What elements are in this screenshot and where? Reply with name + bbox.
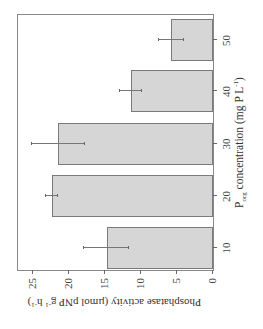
error-bar-50 xyxy=(159,40,183,41)
x-tick-label: 20 xyxy=(220,182,232,212)
y-label-sup1: -1 xyxy=(45,301,51,309)
error-cap-bottom xyxy=(84,142,85,145)
x-tick-label: 10 xyxy=(220,233,232,263)
y-tick xyxy=(68,270,69,274)
bar-40 xyxy=(131,71,213,113)
x-tick xyxy=(213,143,217,144)
error-bar-10 xyxy=(84,247,129,248)
y-tick xyxy=(104,270,105,274)
bar-50 xyxy=(171,20,213,62)
error-cap-top xyxy=(31,142,32,145)
error-cap-top xyxy=(158,39,159,42)
error-cap-top xyxy=(83,246,84,249)
plot-area: 10203040500510152025 xyxy=(17,14,214,271)
y-label-mid: h xyxy=(37,297,45,309)
y-label-sup2: -1 xyxy=(31,301,37,309)
error-cap-top xyxy=(119,90,120,93)
y-label-close: ) xyxy=(27,297,31,309)
x-label-sub: org xyxy=(240,192,248,201)
error-bar-40 xyxy=(120,91,142,92)
error-cap-bottom xyxy=(183,39,184,42)
y-tick xyxy=(140,270,141,274)
y-tick xyxy=(32,270,33,274)
bar-20 xyxy=(52,176,213,218)
x-tick xyxy=(213,196,217,197)
y-label-main: Phosphatase activity (µmol pNP g xyxy=(51,297,201,309)
error-cap-top xyxy=(45,195,46,198)
x-tick xyxy=(213,247,217,248)
y-tick xyxy=(212,270,213,274)
x-tick-label: 40 xyxy=(220,77,232,107)
x-tick xyxy=(213,40,217,41)
x-axis-label: Porg concentration (mg P L-1) xyxy=(232,14,248,271)
chart-canvas: 10203040500510152025 Phosphatase activit… xyxy=(0,0,263,329)
x-tick xyxy=(213,91,217,92)
x-label-rest: concentration (mg P L xyxy=(233,87,245,193)
x-label-sup: -1 xyxy=(232,81,240,87)
error-cap-bottom xyxy=(141,90,142,93)
error-bar-30 xyxy=(32,143,85,144)
error-cap-bottom xyxy=(57,195,58,198)
bar-10 xyxy=(107,227,213,269)
x-tick-label: 30 xyxy=(220,129,232,159)
error-cap-bottom xyxy=(128,246,129,249)
x-label-main: P xyxy=(233,202,245,208)
x-tick-label: 50 xyxy=(220,26,232,56)
y-axis-label: Phosphatase activity (µmol pNP g-1 h-1) xyxy=(14,297,214,310)
y-tick xyxy=(176,270,177,274)
x-label-close: ) xyxy=(233,77,245,81)
bar-30 xyxy=(58,123,213,165)
